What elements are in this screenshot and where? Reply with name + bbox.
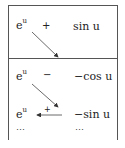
arrow-diagonal-2 [32, 84, 58, 107]
arrows-layer [0, 0, 125, 148]
arrow-diagonal-1 [32, 32, 58, 57]
